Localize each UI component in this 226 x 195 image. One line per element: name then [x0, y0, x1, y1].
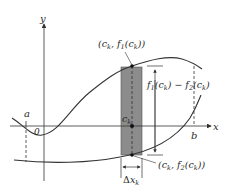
- width-label: Δxk: [123, 174, 139, 187]
- origin-label: 0: [34, 127, 40, 137]
- representative-rectangle: [121, 67, 142, 155]
- a-label: a: [24, 108, 30, 119]
- upper-leader: [125, 52, 132, 65]
- curve-f2: [14, 95, 201, 162]
- area-between-curves-diagram: y x 0 a b (ck, f1(ck)) f1(ck) − f2(ck) c…: [0, 0, 226, 195]
- height-label: f1(ck) − f2(ck): [146, 79, 210, 92]
- upper-point-label: (ck, f1(ck)): [98, 38, 145, 51]
- y-axis-label: y: [39, 13, 46, 24]
- lower-point-label: (ck, f2(ck)): [158, 159, 205, 172]
- lower-leader: [134, 156, 156, 163]
- x-axis-label: x: [213, 121, 219, 132]
- curve-f1: [12, 58, 202, 136]
- b-label: b: [191, 130, 197, 141]
- lower-point: [130, 153, 134, 157]
